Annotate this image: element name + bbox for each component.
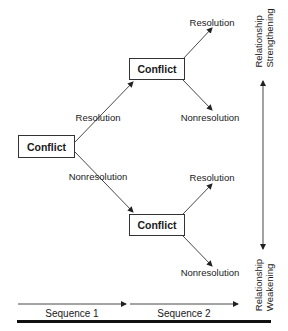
arrow-root-to-lower: [75, 152, 133, 212]
bottom-rule: [17, 320, 271, 323]
label-sequence-1: Sequence 1: [45, 308, 98, 319]
conflict-label: Conflict: [137, 219, 176, 231]
label-lower-resolution: Resolution: [190, 172, 235, 183]
conflict-box-upper: Conflict: [129, 58, 185, 80]
conflict-box-root: Conflict: [18, 135, 75, 158]
arrow-upper-resolution: [183, 28, 212, 59]
conflict-label: Conflict: [137, 63, 176, 75]
arrow-lower-nonresolution: [183, 236, 212, 266]
label-relationship-weakening: Relationship Weakening: [253, 259, 275, 311]
label-root-resolution: Resolution: [76, 112, 121, 123]
label-root-nonresolution: Nonresolution: [69, 171, 128, 182]
label-upper-nonresolution: Nonresolution: [181, 112, 240, 123]
label-upper-resolution: Resolution: [190, 17, 235, 28]
label-lower-nonresolution: Nonresolution: [181, 267, 240, 278]
diagram-arrows: [0, 0, 288, 331]
arrow-upper-nonresolution: [183, 80, 212, 110]
conflict-box-lower: Conflict: [129, 214, 185, 236]
arrow-lower-resolution: [183, 184, 212, 214]
label-sequence-2: Sequence 2: [157, 308, 210, 319]
label-relationship-strengthening: Relationship Strengthening: [253, 8, 275, 67]
conflict-label: Conflict: [27, 141, 66, 153]
